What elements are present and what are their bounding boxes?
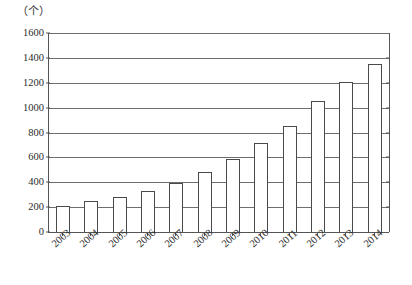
y-axis-tick-label: 1000 bbox=[23, 102, 44, 113]
x-axis-label-slot: 2013 bbox=[331, 239, 359, 279]
bar-slot bbox=[219, 33, 247, 232]
y-axis-tick-label: 1200 bbox=[23, 78, 44, 89]
bar-slot bbox=[276, 33, 304, 232]
bar-2006 bbox=[141, 191, 155, 232]
x-axis-label-slot: 2004 bbox=[76, 239, 104, 279]
bar-series bbox=[49, 33, 389, 232]
right-axis-line bbox=[389, 33, 390, 232]
bar-chart: （个） 02004006008001000120014001600 200320… bbox=[0, 0, 412, 285]
bar-2008 bbox=[198, 172, 212, 232]
bar-slot bbox=[162, 33, 190, 232]
y-axis-tick-label: 600 bbox=[28, 152, 44, 163]
y-axis-tick-label: 1600 bbox=[23, 28, 44, 39]
x-axis-labels: 2003200420052006200720082009201020112012… bbox=[48, 239, 388, 279]
y-axis-tick-label: 0 bbox=[39, 227, 44, 238]
x-axis-label-slot: 2006 bbox=[133, 239, 161, 279]
x-axis-label-slot: 2012 bbox=[303, 239, 331, 279]
bar-2014 bbox=[368, 64, 382, 232]
x-axis-label-slot: 2011 bbox=[275, 239, 303, 279]
bar-slot bbox=[134, 33, 162, 232]
y-axis-tick-label: 1400 bbox=[23, 53, 44, 64]
bar-slot bbox=[49, 33, 77, 232]
y-axis-tick-label: 400 bbox=[28, 177, 44, 188]
x-axis-label-slot: 2007 bbox=[161, 239, 189, 279]
plot-area: 02004006008001000120014001600 bbox=[48, 33, 389, 233]
bar-slot bbox=[247, 33, 275, 232]
bar-2007 bbox=[169, 183, 183, 232]
bar-2010 bbox=[254, 143, 268, 232]
bar-slot bbox=[361, 33, 389, 232]
bar-2013 bbox=[339, 82, 353, 232]
y-axis-tick-label: 200 bbox=[28, 202, 44, 213]
x-axis-label-slot: 2008 bbox=[190, 239, 218, 279]
bar-slot bbox=[304, 33, 332, 232]
x-axis-label-slot: 2014 bbox=[360, 239, 388, 279]
y-axis-tick-label: 800 bbox=[28, 127, 44, 138]
y-axis-unit-label: （个） bbox=[17, 6, 50, 18]
bar-2005 bbox=[113, 197, 127, 232]
x-axis-label-slot: 2003 bbox=[48, 239, 76, 279]
bar-slot bbox=[106, 33, 134, 232]
bar-slot bbox=[77, 33, 105, 232]
x-axis-label-slot: 2009 bbox=[218, 239, 246, 279]
bar-slot bbox=[332, 33, 360, 232]
bar-2011 bbox=[283, 126, 297, 232]
bar-2009 bbox=[226, 159, 240, 232]
x-axis-label-slot: 2010 bbox=[246, 239, 274, 279]
bar-2012 bbox=[311, 101, 325, 232]
x-axis-label-slot: 2005 bbox=[105, 239, 133, 279]
bar-slot bbox=[191, 33, 219, 232]
